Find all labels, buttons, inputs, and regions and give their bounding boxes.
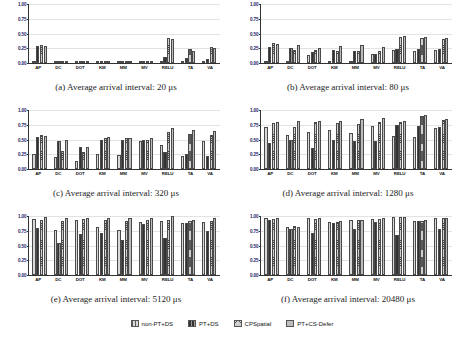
bar-group-AP bbox=[32, 110, 46, 169]
bar-group-TA bbox=[413, 216, 427, 275]
x-tick-label-TA: TA bbox=[188, 65, 193, 73]
bar bbox=[44, 136, 47, 169]
y-tick-label: 0.00 bbox=[250, 61, 259, 66]
x-tick-label-AP: AP bbox=[267, 171, 273, 179]
bar bbox=[192, 51, 195, 63]
bar bbox=[128, 61, 131, 63]
bar bbox=[318, 121, 321, 169]
subplot-caption-f: (f) Average arrival interval: 20480 μs bbox=[238, 294, 458, 304]
bar-group-MV bbox=[139, 216, 153, 275]
bar bbox=[107, 61, 110, 63]
bar-group-VA bbox=[434, 110, 448, 169]
bar-group-DC bbox=[286, 110, 300, 169]
x-tick-label-RELU: RELU bbox=[162, 277, 174, 285]
y-tick-label: 0.00 bbox=[18, 61, 27, 66]
legend-swatch-icon bbox=[188, 320, 196, 327]
bar-group-DC bbox=[286, 216, 300, 275]
plot-area-c: 0.000.250.500.751.00APDCDOTKMMMMVRELUTAV… bbox=[28, 110, 220, 182]
bar-group-VA bbox=[434, 4, 448, 63]
plot-area-a: 0.000.250.500.751.00APDCDOTKMMMMVRELUTAV… bbox=[28, 4, 220, 76]
x-tick-label-DC: DC bbox=[287, 171, 293, 179]
x-tick-label-MM: MM bbox=[352, 171, 359, 179]
bar-group-DC bbox=[286, 4, 300, 63]
y-tick-label: 1.00 bbox=[250, 2, 259, 7]
y-tick-label: 0.25 bbox=[250, 46, 259, 51]
y-tick-label: 1.00 bbox=[18, 214, 27, 219]
bar bbox=[171, 128, 174, 169]
x-tick-label-MV: MV bbox=[373, 171, 379, 179]
x-axis-labels: APDCDOTKMMMMVRELUTAVA bbox=[260, 277, 452, 285]
bar bbox=[276, 44, 279, 63]
bar-group-VA bbox=[434, 216, 448, 275]
bar-group-MV bbox=[139, 110, 153, 169]
bar bbox=[213, 131, 216, 169]
bar bbox=[445, 119, 448, 169]
y-tick-label: 0.25 bbox=[250, 152, 259, 157]
subplot-c: 0.000.250.500.751.00APDCDOTKMMMMVRELUTAV… bbox=[0, 106, 232, 212]
x-tick-label-MM: MM bbox=[352, 277, 359, 285]
bar-groups bbox=[29, 216, 220, 275]
x-tick-label-TA: TA bbox=[420, 65, 425, 73]
x-tick-label-RELU: RELU bbox=[394, 65, 406, 73]
bar bbox=[128, 138, 131, 169]
plot-area-f: 0.000.250.500.751.00APDCDOTKMMMMVRELUTAV… bbox=[260, 216, 452, 288]
legend-label: PT+DS bbox=[199, 321, 219, 327]
bar-group-RELU bbox=[160, 216, 174, 275]
bar-group-DC bbox=[54, 216, 68, 275]
y-tick-label: 1.00 bbox=[18, 2, 27, 7]
bar-group-VA bbox=[202, 4, 216, 63]
bar bbox=[424, 220, 427, 275]
bar-group-KM bbox=[328, 216, 342, 275]
x-tick-label-DC: DC bbox=[287, 277, 293, 285]
bar-group-MV bbox=[371, 216, 385, 275]
bar bbox=[171, 39, 174, 63]
subplot-b: 0.000.250.500.751.00APDCDOTKMMMMVRELUTAV… bbox=[232, 0, 464, 106]
bar bbox=[276, 122, 279, 169]
x-tick-label-KM: KM bbox=[331, 171, 338, 179]
bar bbox=[382, 118, 385, 169]
bar bbox=[424, 115, 427, 169]
bar-group-KM bbox=[96, 110, 110, 169]
y-tick-label: 1.00 bbox=[250, 108, 259, 113]
x-tick-label-MM: MM bbox=[120, 171, 127, 179]
y-tick-mark bbox=[27, 275, 29, 276]
x-axis-labels: APDCDOTKMMMMVRELUTAVA bbox=[28, 171, 220, 179]
bar-group-RELU bbox=[160, 4, 174, 63]
x-tick-label-DOT: DOT bbox=[308, 277, 317, 285]
axes-f: 0.000.250.500.751.00 bbox=[260, 216, 452, 276]
y-tick-label: 0.50 bbox=[250, 137, 259, 142]
subplot-caption-e: (e) Average arrival interval: 5120 μs bbox=[6, 294, 226, 304]
bar bbox=[44, 46, 47, 63]
axes-d: 0.000.250.500.751.00 bbox=[260, 110, 452, 170]
bar-group-MM bbox=[117, 4, 131, 63]
x-tick-label-VA: VA bbox=[207, 65, 213, 73]
axes-c: 0.000.250.500.751.00 bbox=[28, 110, 220, 170]
bar bbox=[339, 121, 342, 169]
bar bbox=[107, 218, 110, 275]
y-tick-label: 0.50 bbox=[18, 243, 27, 248]
y-tick-label: 0.25 bbox=[18, 46, 27, 51]
y-tick-mark bbox=[27, 63, 29, 64]
bar-groups bbox=[29, 110, 220, 169]
bar-group-TA bbox=[181, 110, 195, 169]
bar bbox=[192, 130, 195, 169]
bar bbox=[360, 119, 363, 169]
bar-group-KM bbox=[96, 216, 110, 275]
x-tick-label-DOT: DOT bbox=[76, 171, 85, 179]
bar-group-KM bbox=[328, 4, 342, 63]
x-tick-label-MV: MV bbox=[141, 277, 147, 285]
bar-group-MV bbox=[371, 110, 385, 169]
y-tick-label: 0.25 bbox=[18, 258, 27, 263]
axes-b: 0.000.250.500.751.00 bbox=[260, 4, 452, 64]
bar-group-KM bbox=[328, 110, 342, 169]
figure-legend: non-PT+DSPT+DSCPSpatialPT+CS-Defer bbox=[0, 320, 464, 327]
x-tick-label-AP: AP bbox=[35, 171, 41, 179]
bar bbox=[403, 217, 406, 275]
bar bbox=[339, 221, 342, 275]
y-tick-label: 0.50 bbox=[18, 31, 27, 36]
subplot-caption-b: (b) Average arrival interval: 80 μs bbox=[238, 82, 458, 92]
y-tick-label: 0.75 bbox=[250, 16, 259, 21]
x-tick-label-DC: DC bbox=[287, 65, 293, 73]
bar bbox=[276, 218, 279, 275]
subplot-caption-d: (d) Average arrival interval: 1280 μs bbox=[238, 188, 458, 198]
